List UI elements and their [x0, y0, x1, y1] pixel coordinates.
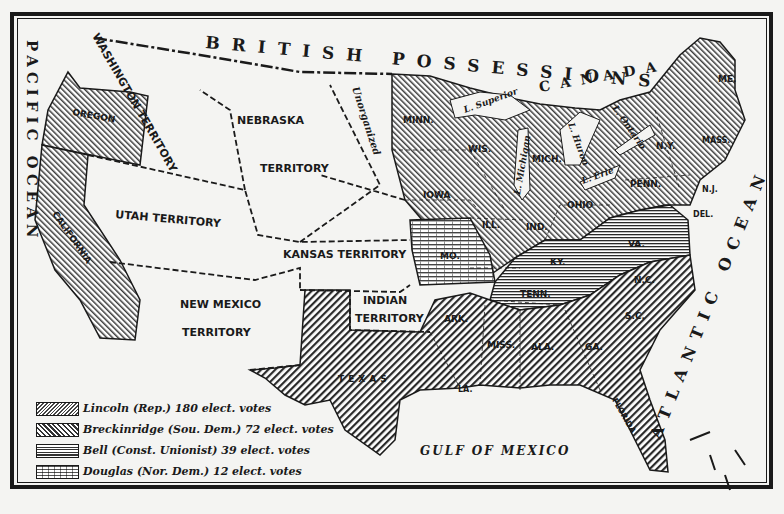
legend-item-bell: Bell (Const. Unionist) 39 elect. votes — [36, 440, 334, 461]
bell-swatch-icon — [36, 444, 79, 458]
legend-item-breckinridge: Breckinridge (Sou. Dem.) 72 elect. votes — [36, 419, 334, 440]
douglas-swatch-icon — [36, 465, 79, 479]
legend: Lincoln (Rep.) 180 elect. votes Breckinr… — [36, 398, 334, 482]
lincoln-swatch-icon — [36, 402, 79, 416]
breckinridge-swatch-icon — [36, 423, 79, 437]
legend-item-lincoln: Lincoln (Rep.) 180 elect. votes — [36, 398, 334, 419]
legend-label: Lincoln (Rep.) 180 elect. votes — [83, 402, 271, 415]
legend-label: Douglas (Nor. Dem.) 12 elect. votes — [83, 465, 302, 478]
legend-item-douglas: Douglas (Nor. Dem.) 12 elect. votes — [36, 461, 334, 482]
legend-label: Breckinridge (Sou. Dem.) 72 elect. votes — [83, 423, 334, 436]
legend-label: Bell (Const. Unionist) 39 elect. votes — [83, 444, 310, 457]
